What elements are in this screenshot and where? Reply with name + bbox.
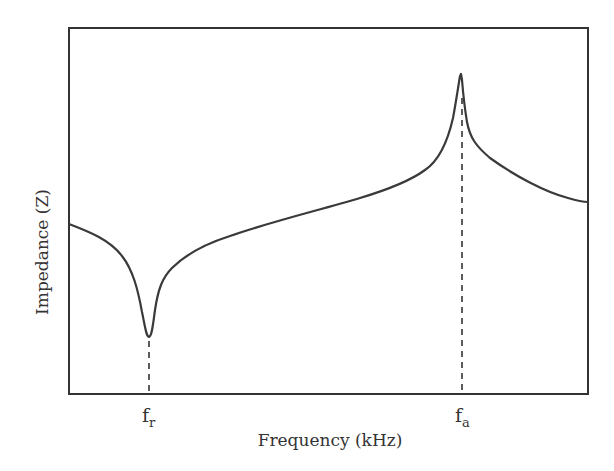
- impedance-curve: [69, 74, 588, 337]
- fr-tick-label: fr: [142, 404, 156, 430]
- plot-frame: [69, 28, 588, 394]
- impedance-frequency-chart: fr fa Frequency (kHz) Impedance (Z): [0, 0, 614, 471]
- y-axis-label: Impedance (Z): [32, 189, 52, 315]
- x-axis-label: Frequency (kHz): [258, 430, 403, 450]
- fa-tick-label: fa: [455, 404, 470, 430]
